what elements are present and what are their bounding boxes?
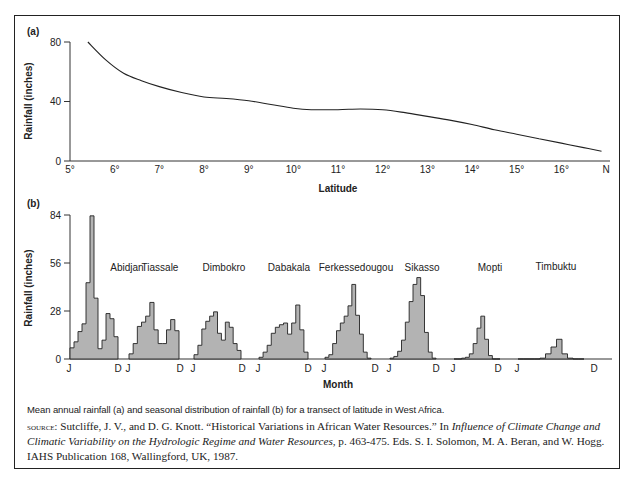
x-tick-label: 12° <box>375 164 390 175</box>
x-tick-label: N <box>602 164 609 175</box>
station-label: Sikasso <box>404 262 439 273</box>
month-label-start: J <box>387 363 392 374</box>
month-label-end: D <box>114 363 121 374</box>
station-label: Timbuktu <box>536 261 577 272</box>
x-tick-label: 9° <box>244 164 254 175</box>
histogram-bars <box>325 284 371 359</box>
y-tick-label: 80 <box>50 37 62 48</box>
x-axis-title-a: Latitude <box>319 183 358 194</box>
y-ticks-a: 04080 <box>50 37 70 167</box>
y-tick-label: 28 <box>50 306 62 317</box>
station-label: Mopti <box>478 262 502 273</box>
station-label: Dimbokro <box>203 262 246 273</box>
x-tick-label: 7° <box>155 164 165 175</box>
station-histogram-dimbokro: DimbokroJD <box>191 262 246 374</box>
month-label-start: J <box>515 363 520 374</box>
station-histogram-ferkessedougou: FerkessedougouJD <box>319 262 394 374</box>
x-tick-label: 5° <box>65 164 75 175</box>
y-tick-label: 0 <box>55 156 61 167</box>
y-tick-label: 56 <box>50 258 62 269</box>
station-label: Tiassale <box>142 262 179 273</box>
x-tick-label: 6° <box>110 164 120 175</box>
month-label-end: D <box>176 363 183 374</box>
station-histogram-timbuktu: TimbuktuJD <box>515 261 598 374</box>
x-tick-label: 15° <box>509 164 524 175</box>
month-label-start: J <box>126 363 131 374</box>
station-histogram-mopti: MoptiJD <box>451 262 503 374</box>
x-tick-label: 8° <box>199 164 209 175</box>
month-label-start: J <box>256 363 261 374</box>
x-axis-title-b: Month <box>323 379 353 390</box>
x-tick-label: 16° <box>554 164 569 175</box>
y-axis-title-b: Rainfall (inches) <box>23 249 34 326</box>
figure-source-citation: source: Sutcliffe, J. V., and D. G. Knot… <box>27 419 612 464</box>
histogram-bars <box>518 339 584 359</box>
figure-caption: Mean annual rainfall (a) and seasonal di… <box>27 404 612 415</box>
x-tick-label: 13° <box>420 164 435 175</box>
source-text-1: Sutcliffe, J. V., and D. G. Knott. “Hist… <box>57 420 451 432</box>
station-histogram-dabakala: DabakalaJD <box>256 262 312 374</box>
x-ticks-a: 5°6°7°8°9°10°11°12°13°14°15°16°N <box>65 164 609 175</box>
station-histogram-abidjan: AbidjanJD <box>67 216 144 374</box>
y-tick-label: 40 <box>50 96 62 107</box>
month-label-start: J <box>322 363 327 374</box>
month-label-start: J <box>451 363 456 374</box>
station-label: Ferkessedougou <box>319 262 394 273</box>
histogram-bars <box>390 278 436 359</box>
y-ticks-b: 0285684 <box>50 210 70 365</box>
month-label-end: D <box>494 363 501 374</box>
station-label: Dabakala <box>268 262 311 273</box>
month-label-end: D <box>304 363 311 374</box>
month-label-end: D <box>371 363 378 374</box>
station-histograms: AbidjanJDTiassaleJDDimbokroJDDabakalaJDF… <box>67 216 598 374</box>
histogram-bars <box>70 216 118 359</box>
y-tick-label: 84 <box>50 210 62 221</box>
chart-b-seasonal-distribution: (b) 0285684 AbidjanJDTiassaleJDDimbokroJ… <box>23 198 612 390</box>
month-label-end: D <box>432 363 439 374</box>
x-tick-label: 11° <box>331 164 345 175</box>
month-label-start: J <box>67 363 72 374</box>
histogram-bars <box>259 305 308 359</box>
histogram-bars <box>129 302 179 359</box>
month-label-start: J <box>191 363 196 374</box>
panel-label-a: (a) <box>27 26 39 37</box>
month-label-end: D <box>590 363 597 374</box>
histogram-bars <box>194 312 241 359</box>
station-label: Abidjan <box>110 262 143 273</box>
y-tick-label: 0 <box>55 354 61 365</box>
panel-label-b: (b) <box>27 198 40 209</box>
month-label-end: D <box>238 363 245 374</box>
figure-charts: (a) 04080 5°6°7°8°9°10°11°12°13°14°15°16… <box>0 0 636 400</box>
chart-a-mean-annual-rainfall: (a) 04080 5°6°7°8°9°10°11°12°13°14°15°16… <box>23 26 610 194</box>
station-histogram-sikasso: SikassoJD <box>387 262 440 374</box>
rainfall-latitude-line <box>88 42 602 151</box>
source-label: source: <box>27 421 57 432</box>
x-tick-label: 14° <box>464 164 479 175</box>
y-axis-title-a: Rainfall (inches) <box>23 62 34 139</box>
x-tick-label: 10° <box>286 164 301 175</box>
station-histogram-tiassale: TiassaleJD <box>126 262 184 374</box>
histogram-bars <box>454 316 500 359</box>
